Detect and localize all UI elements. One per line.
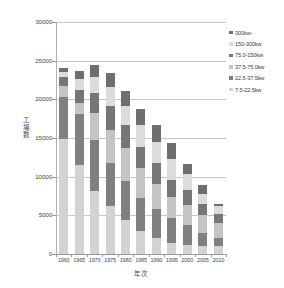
bar-segment [121,181,130,220]
bar-segment [59,77,68,86]
bar-segment [75,71,84,79]
bar-segment [59,97,68,139]
legend-swatch-icon [229,65,233,69]
bar-stack [152,125,161,254]
bar-segment [90,93,99,113]
bar-segment [198,233,207,247]
bar-segment [152,142,161,163]
bar-segment [106,163,115,206]
bar-segment [214,238,223,246]
bar-segment [167,143,176,159]
bar-stack [106,73,115,254]
legend-label: 7.5-22.5kw [235,87,261,93]
bar-segment [152,209,161,238]
legend-item[interactable]: 37.5-75.0kw [229,61,283,72]
x-axis-line [56,254,226,255]
bar-series-group [56,22,226,254]
bar-segment [167,159,176,179]
bar-segment [167,218,176,243]
bar-segment [106,106,115,129]
bar-segment [183,164,192,174]
x-axis-tick-label: 1960 [56,256,71,268]
legend-label: 22.5-37.5kw [235,75,264,81]
x-axis-tick-mark [164,254,165,257]
bar-segment [214,246,223,254]
bar-segment [183,190,192,205]
bar-segment [167,180,176,197]
bar-segment [152,184,161,208]
bar-segment [75,114,84,165]
legend-label: 300kw- [235,30,252,36]
legend-label: 37.5-75.0kw [235,64,264,70]
bar-segment [136,198,145,231]
bar-segment [90,140,99,192]
bar-segment [59,139,68,254]
x-axis-tick-label: 2005 [195,256,210,268]
legend-item[interactable]: 7.5-22.5kw [229,84,283,95]
x-axis-tick-mark [71,254,72,257]
legend-item[interactable]: 300kw- [229,27,283,38]
y-axis-tick-mark [52,61,56,62]
bar-segment [152,238,161,254]
y-axis-tick-label: 30000 [12,19,52,25]
legend-swatch-icon [229,76,233,80]
y-axis-tick-mark [52,215,56,216]
legend-swatch-icon [229,31,233,35]
bar-segment [183,245,192,254]
bar-stack [214,204,223,254]
bar-segment [136,231,145,254]
y-axis-tick-label: 25000 [12,58,52,64]
x-axis-tick-label: 2000 [180,256,195,268]
bar-segment [90,191,99,254]
legend-swatch-icon [229,54,233,58]
bar-segment [106,130,115,163]
x-axis-tick-mark [133,254,134,257]
chart-legend: 300kw-150-300kw75.0-150kw37.5-75.0kw22.5… [229,27,283,95]
bar-segment [90,77,99,93]
y-axis-tick-label: 5000 [12,212,52,218]
bar-segment [90,65,99,76]
bar-stack [59,68,68,254]
bar-segment [75,165,84,254]
bar-segment [183,205,192,225]
bar-segment [198,194,207,204]
legend-swatch-icon [229,88,233,92]
bar-segment [106,87,115,106]
bar-stack [167,143,176,254]
bar-segment [136,147,145,169]
bar-segment [75,79,84,89]
bar-segment [90,113,99,140]
bar-segment [106,73,115,87]
y-axis-tick-label: 0 [12,251,52,257]
legend-item[interactable]: 22.5-37.5kw [229,73,283,84]
x-axis-tick-label: 1970 [87,256,102,268]
x-axis-tick-mark [180,254,181,257]
legend-label: 150-300kw [235,41,261,47]
y-axis-tick-mark [52,138,56,139]
bar-segment [152,163,161,184]
bar-segment [75,90,84,103]
bar-segment [152,125,161,142]
x-axis-tick-label: 1980 [118,256,133,268]
bar-segment [59,86,68,97]
bar-stack [75,71,84,254]
x-axis-tick-label: 1985 [133,256,148,268]
x-axis-tick-label: 1990 [149,256,164,268]
bar-segment [183,225,192,245]
x-axis-tick-label: 1965 [71,256,86,268]
bar-segment [106,206,115,254]
legend-swatch-icon [229,42,233,46]
bar-segment [121,106,130,125]
legend-item[interactable]: 150-300kw [229,38,283,49]
bar-segment [136,125,145,146]
y-axis-tick-mark [52,22,56,23]
legend-item[interactable]: 75.0-150kw [229,50,283,61]
legend-label: 75.0-150kw [235,52,263,58]
x-axis-tick-mark [87,254,88,257]
bar-stack [121,91,130,254]
bar-segment [121,220,130,254]
bar-segment [121,148,130,181]
bar-segment [136,109,145,125]
bar-segment [198,185,207,194]
bar-segment [198,204,207,215]
